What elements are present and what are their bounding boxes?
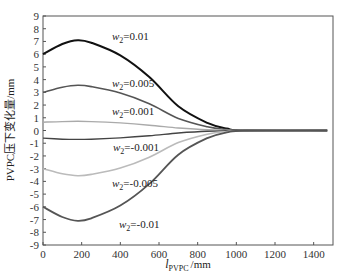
y-tick-label: -7 [30, 214, 40, 226]
y-tick-label: -8 [30, 226, 40, 238]
y-tick-label: 4 [34, 74, 40, 86]
series-line [43, 130, 327, 175]
y-tick-label: -5 [30, 188, 40, 200]
x-axis-label: lPVPC/mm [165, 257, 211, 273]
y-tick-label: -3 [30, 163, 40, 175]
line-chart: 9876543210-1-2-3-4-5-6-7-8-9 02004006008… [0, 0, 349, 280]
x-tick-label: 200 [73, 248, 90, 260]
y-tick-label: 6 [34, 48, 40, 60]
y-axis-ticks: 9876543210-1-2-3-4-5-6-7-8-9 [30, 10, 46, 251]
series-annotations: w2=0.01w2=0.005w2=0.001w2=-0.001w2=-0.00… [112, 30, 159, 233]
x-tick-label: 1400 [303, 248, 326, 260]
series-line [43, 85, 327, 130]
y-tick-label: 8 [34, 23, 40, 35]
y-tick-label: 3 [34, 86, 40, 98]
series-label: w2=0.001 [112, 105, 154, 120]
y-tick-label: 7 [34, 35, 40, 47]
x-tick-label: 400 [112, 248, 129, 260]
y-tick-label: -1 [30, 137, 39, 149]
series-label: w2=0.01 [112, 30, 149, 45]
y-tick-label: 9 [34, 10, 40, 22]
series-label: w2=-0.01 [119, 218, 159, 233]
y-tick-label: 5 [34, 61, 40, 73]
y-tick-label: 1 [34, 112, 40, 124]
series-label: w2=-0.005 [112, 177, 158, 192]
x-tick-label: 1000 [225, 248, 248, 260]
y-tick-label: -9 [30, 239, 40, 251]
y-axis-label: PVPC压下变化量/mm [3, 78, 16, 181]
series-line [43, 121, 327, 130]
x-tick-label: 0 [40, 248, 46, 260]
x-tick-label: 1200 [264, 248, 287, 260]
y-tick-label: -2 [30, 150, 39, 162]
series-label: w2=-0.001 [113, 141, 159, 156]
y-tick-label: -6 [30, 201, 40, 213]
series-line [43, 131, 327, 140]
y-tick-label: 2 [34, 99, 40, 111]
y-tick-label: -4 [30, 175, 40, 187]
series-label: w2=0.005 [112, 77, 155, 92]
y-tick-label: 0 [34, 125, 40, 137]
series-lines [43, 40, 327, 221]
